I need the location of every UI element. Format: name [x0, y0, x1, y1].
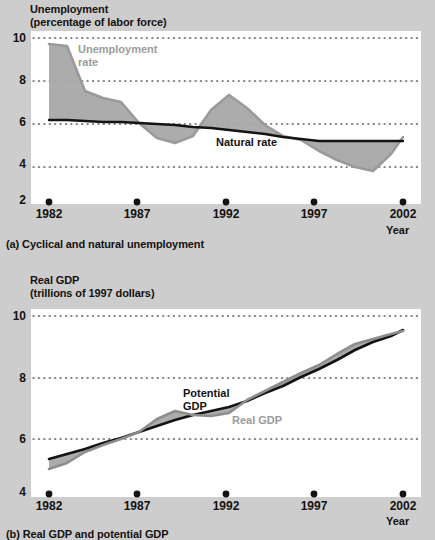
panel-b-xtick-1992: 1992 — [203, 500, 249, 513]
panel-a-xtick-1997: 1997 — [291, 208, 337, 221]
panel-a-title-line1: Unemployment — [30, 3, 167, 16]
panel-b-xtick-1997: 1997 — [291, 500, 337, 513]
panel-b-gridlines — [33, 316, 419, 439]
panel-b-xtick-1982: 1982 — [26, 500, 72, 513]
panel-a-xtick-1992: 1992 — [203, 208, 249, 221]
panel-a-ytick-6: 6 — [4, 116, 26, 128]
panel-a-annotation-natural-rate: Natural rate — [216, 136, 277, 149]
panel-a-ytick-10: 10 — [4, 32, 26, 44]
panel-b-xaxis-label: Year — [386, 515, 409, 527]
panel-real-gdp: Real GDP (trillions of 1997 dollars) 10 … — [0, 262, 435, 535]
panel-b-caption: (b) Real GDP and potential GDP — [6, 528, 168, 540]
panel-a-ytick-8: 8 — [4, 74, 26, 86]
panel-b-ytick-4: 4 — [4, 486, 26, 498]
panel-b-annotation-potential-gdp: Potential GDP — [183, 387, 229, 413]
panel-a-xtick-2002: 2002 — [380, 208, 426, 221]
panel-cyclical-unemployment: Unemployment (percentage of labor force)… — [0, 0, 435, 258]
panel-b-ytick-6: 6 — [4, 433, 26, 445]
panel-a-annotation-unemployment-rate-line1: Unemployment — [78, 43, 157, 56]
panel-b-annotation-potential-gdp-line1: Potential — [183, 387, 229, 400]
panel-b-ytick-8: 8 — [4, 372, 26, 384]
panel-a-annotation-unemployment-rate-line2: rate — [78, 56, 157, 69]
panel-b-xtick-1987: 1987 — [114, 500, 160, 513]
panel-b-title-line1: Real GDP — [30, 274, 154, 287]
panel-b-title-line2: (trillions of 1997 dollars) — [30, 287, 154, 300]
panel-b-xtick-2002: 2002 — [380, 500, 426, 513]
panel-b-annotation-real-gdp: Real GDP — [232, 414, 282, 427]
panel-b-axis-title: Real GDP (trillions of 1997 dollars) — [30, 274, 154, 300]
panel-b-annotation-potential-gdp-line2: GDP — [183, 400, 229, 413]
panel-b-ytick-10: 10 — [4, 310, 26, 322]
panel-a-title-line2: (percentage of labor force) — [30, 16, 167, 29]
panel-a-xtick-1987: 1987 — [114, 208, 160, 221]
panel-a-axis-title: Unemployment (percentage of labor force) — [30, 3, 167, 29]
panel-a-annotation-unemployment-rate: Unemployment rate — [78, 43, 157, 69]
panel-a-xtick-1982: 1982 — [26, 208, 72, 221]
panel-a-ytick-2: 2 — [4, 194, 26, 206]
panel-a-ytick-4: 4 — [4, 158, 26, 170]
panel-a-caption: (a) Cyclical and natural unemployment — [6, 238, 204, 250]
panel-a-xaxis-label: Year — [386, 224, 409, 236]
